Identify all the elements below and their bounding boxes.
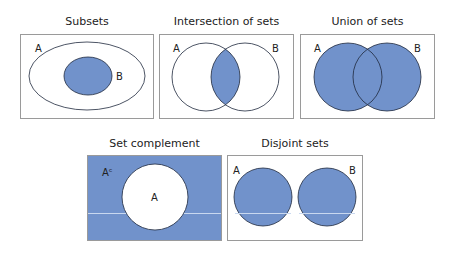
panel-intersection: A B [160, 35, 294, 119]
panel-subsets: A B [21, 35, 154, 119]
label-a: A [35, 43, 42, 54]
panel-disjoint: A B [228, 156, 363, 241]
set-b-ellipse [64, 57, 112, 95]
label-b: B [349, 165, 356, 176]
set-b-circle [298, 168, 356, 226]
panel-complement: Aᶜ A [88, 156, 222, 241]
label-b: B [116, 71, 123, 82]
label-a-complement: Aᶜ [102, 167, 113, 178]
label-a: A [173, 43, 180, 54]
label-a: A [314, 43, 321, 54]
venn-diagrams: A B A B A B Aᶜ A A B [0, 0, 459, 261]
panel-union: A B [301, 35, 435, 119]
label-a: A [233, 165, 240, 176]
label-b: B [414, 43, 421, 54]
label-b: B [272, 43, 279, 54]
set-a-circle [234, 168, 292, 226]
label-a: A [151, 192, 158, 203]
